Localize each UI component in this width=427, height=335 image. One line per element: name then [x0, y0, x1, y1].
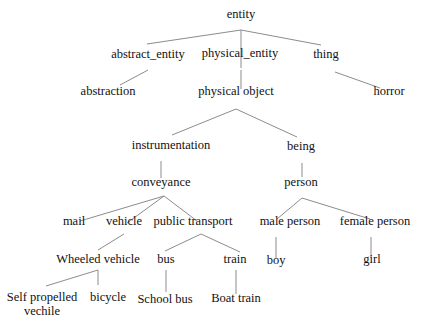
node-female-person: female person [340, 214, 410, 228]
node-bicycle: bicycle [90, 290, 126, 304]
node-instrumentation: instrumentation [132, 138, 210, 152]
node-public-transport: public transport [154, 214, 233, 228]
node-being: being [287, 139, 315, 153]
node-thing: thing [313, 47, 339, 61]
node-school-bus: School bus [137, 292, 192, 306]
node-horror: horror [373, 84, 404, 98]
node-entity: entity [227, 7, 255, 21]
node-vehicle: vehicle [106, 214, 142, 228]
edge-entity-to-thing [241, 30, 321, 45]
node-abstraction: abstraction [81, 84, 136, 98]
node-abstract-entity: abstract_entity [111, 47, 185, 61]
edge-abstract-entity-to-abstraction [120, 70, 148, 85]
node-boat-train: Boat train [211, 291, 261, 305]
node-girl: girl [363, 252, 380, 266]
node-train: train [224, 252, 247, 266]
node-boy: boy [267, 253, 286, 267]
node-mail: mail [63, 214, 85, 228]
edge-wheeled-vehicle-to-self-propelled-vehicle [46, 270, 98, 286]
edge-entity-to-abstract-entity [147, 30, 241, 44]
node-physical-object: physical object [198, 84, 273, 98]
node-self-propelled-vehicle: Self propelledvechile [7, 290, 77, 318]
edge-physical-object-to-instrumentation [172, 109, 236, 135]
node-wheeled-vehicle: Wheeled vehicle [56, 252, 140, 266]
edge-vehicle-to-wheeled-vehicle [98, 234, 124, 250]
node-physical-entity: physical_entity [202, 46, 278, 60]
edge-public-transport-to-bus [165, 234, 201, 251]
edge-public-transport-to-train [201, 234, 240, 252]
taxonomy-tree-diagram: entityabstract_entityphysical_entitythin… [0, 0, 427, 335]
node-conveyance: conveyance [132, 175, 191, 189]
node-bus: bus [157, 252, 174, 266]
node-person: person [284, 175, 317, 189]
node-male-person: male person [260, 214, 321, 228]
edge-physical-object-to-being [236, 109, 297, 137]
